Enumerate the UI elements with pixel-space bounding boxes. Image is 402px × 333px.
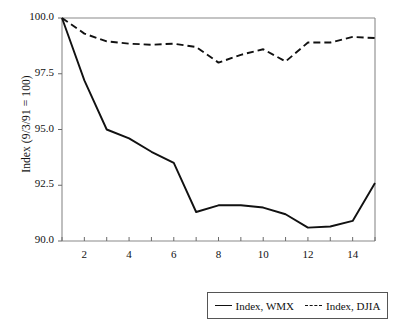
y-tick-label: 95.0 bbox=[0, 122, 54, 134]
x-tick-label: 4 bbox=[109, 248, 149, 260]
legend-item-djia: Index, DJIA bbox=[305, 300, 380, 312]
legend-swatch-solid-icon bbox=[215, 305, 232, 306]
x-tick-label: 14 bbox=[333, 248, 373, 260]
legend-label-wmx: Index, WMX bbox=[236, 300, 294, 312]
legend-label-djia: Index, DJIA bbox=[326, 300, 380, 312]
legend-item-wmx: Index, WMX bbox=[215, 300, 294, 312]
series-line-index-wmx bbox=[62, 18, 375, 228]
chart-container: Index (9/3/91 = 100) 90.092.595.097.5100… bbox=[0, 0, 402, 333]
chart-legend: Index, WMX Index, DJIA bbox=[207, 292, 388, 319]
series-line-index-djia bbox=[62, 18, 375, 63]
x-tick-label: 2 bbox=[64, 248, 104, 260]
data-series-group bbox=[62, 18, 375, 228]
y-tick-label: 100.0 bbox=[0, 10, 54, 22]
x-tick-label: 10 bbox=[243, 248, 283, 260]
y-tick-label: 92.5 bbox=[0, 177, 54, 189]
y-tick-label: 97.5 bbox=[0, 66, 54, 78]
x-tick-label: 8 bbox=[199, 248, 239, 260]
x-tick-label: 12 bbox=[288, 248, 328, 260]
x-tick-label: 6 bbox=[154, 248, 194, 260]
plot-area bbox=[0, 0, 402, 333]
axis-tick-marks bbox=[58, 18, 375, 241]
y-tick-label: 90.0 bbox=[0, 233, 54, 245]
legend-swatch-dashed-icon bbox=[305, 305, 322, 306]
